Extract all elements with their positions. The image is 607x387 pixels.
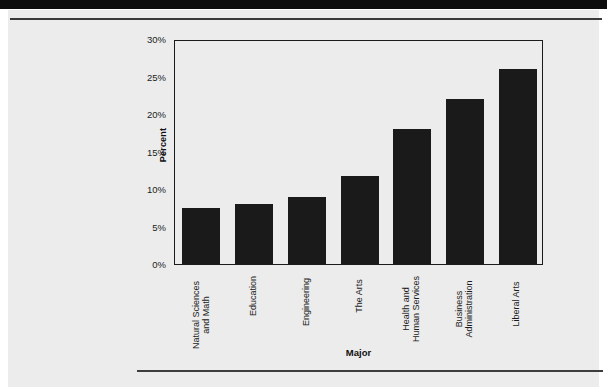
page-container: Percent 0%5%10%15%20%25%30% Natural Scie… <box>0 0 607 387</box>
bar-chart: Percent 0%5%10%15%20%25%30% Natural Scie… <box>0 0 607 387</box>
x-tick-label: Natural Sciences and Math <box>190 273 210 356</box>
y-tick-label: 25% <box>132 72 166 83</box>
plot-inner <box>175 41 542 264</box>
bar <box>446 99 484 264</box>
bar <box>182 208 220 264</box>
plot-frame <box>174 40 543 265</box>
bar <box>288 197 326 265</box>
bar <box>235 204 273 264</box>
y-tick-label: 0% <box>132 259 166 270</box>
x-tick-label: Business Administration <box>454 273 474 346</box>
y-tick-label: 10% <box>132 184 166 195</box>
y-tick-label: 30% <box>132 34 166 45</box>
y-axis-title: Percent <box>158 110 168 180</box>
x-axis-title: Major <box>306 347 411 358</box>
y-tick-label: 20% <box>132 109 166 120</box>
bar <box>341 176 379 265</box>
bar <box>499 69 537 264</box>
x-tick-label: Education <box>248 273 258 320</box>
x-tick-label: Health and Human Services <box>401 273 421 346</box>
y-tick-label: 5% <box>132 222 166 233</box>
y-tick-label: 15% <box>132 147 166 158</box>
x-tick-label: The Arts <box>354 273 364 319</box>
x-tick-label: Liberal Arts <box>512 273 522 335</box>
bar <box>393 129 431 264</box>
x-tick-label: Engineering <box>301 273 311 330</box>
